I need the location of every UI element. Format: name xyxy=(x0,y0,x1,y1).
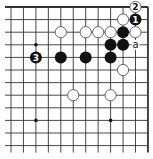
white-stone-disc xyxy=(80,27,91,38)
point-label: a xyxy=(132,39,138,50)
white-stone-disc xyxy=(55,27,66,38)
star-point xyxy=(34,119,38,123)
white-stone xyxy=(80,27,91,38)
black-stone-disc xyxy=(55,51,67,63)
white-stone xyxy=(105,90,116,101)
white-stone-disc xyxy=(68,90,79,101)
black-stone xyxy=(117,39,129,51)
black-stone-disc xyxy=(105,39,117,51)
black-stone xyxy=(117,26,129,38)
white-stone-disc xyxy=(93,27,104,38)
white-stone xyxy=(55,27,66,38)
stone-move-number: 2 xyxy=(132,2,138,12)
white-stone: 2 xyxy=(130,1,141,12)
black-stone xyxy=(55,51,67,63)
markers: a xyxy=(132,39,140,50)
go-board: 213 a xyxy=(0,0,153,159)
white-stone xyxy=(105,27,116,38)
white-stone-disc xyxy=(105,90,116,101)
white-stone xyxy=(93,27,104,38)
white-stone xyxy=(117,64,128,75)
black-stone xyxy=(105,51,117,63)
black-stone: 3 xyxy=(30,51,42,63)
white-stone-disc xyxy=(130,27,141,38)
white-stone-disc xyxy=(105,27,116,38)
white-stone-disc xyxy=(117,64,128,75)
star-point xyxy=(109,119,113,123)
black-stone xyxy=(80,51,92,63)
black-stone-disc xyxy=(117,26,129,38)
stone-move-number: 1 xyxy=(132,15,138,25)
white-stone-disc xyxy=(117,14,128,25)
black-stone-disc xyxy=(105,51,117,63)
white-stone xyxy=(68,90,79,101)
star-point xyxy=(34,43,38,47)
black-stone-disc xyxy=(117,39,129,51)
black-stone xyxy=(105,39,117,51)
white-stone xyxy=(130,27,141,38)
black-stone-disc xyxy=(80,51,92,63)
black-stone: 1 xyxy=(130,14,142,26)
white-stone xyxy=(117,14,128,25)
stone-move-number: 3 xyxy=(33,53,39,63)
